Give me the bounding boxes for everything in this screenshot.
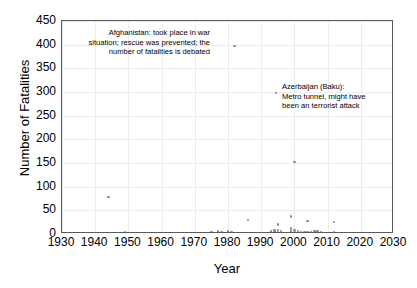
gridline-vertical: [294, 21, 295, 232]
data-point: [310, 231, 312, 233]
scatter-chart-figure: Number of Fatalities 0501001502002503003…: [0, 0, 417, 288]
data-point: [280, 232, 282, 233]
data-point: [333, 221, 335, 223]
data-point: [247, 219, 249, 221]
gridline-vertical: [328, 21, 329, 232]
gridline-vertical: [261, 21, 262, 232]
y-axis-tick-label: 400: [16, 38, 56, 50]
data-point: [270, 232, 272, 233]
data-point: [326, 232, 328, 233]
data-point: [277, 232, 279, 233]
x-axis-tick-label: 2030: [371, 236, 415, 248]
data-point: [233, 45, 235, 47]
annotation-azerbaijan: Azerbaijan (Baku): Metro tunnel, might h…: [282, 82, 394, 111]
gridline-horizontal: [62, 21, 392, 22]
data-point: [333, 231, 335, 233]
data-point: [273, 231, 275, 233]
gridline-horizontal: [62, 68, 392, 69]
gridline-vertical: [361, 21, 362, 232]
data-point: [277, 223, 279, 225]
data-point: [300, 231, 302, 233]
data-point: [230, 231, 232, 233]
y-axis-tick-label: 300: [16, 85, 56, 97]
x-axis-title: Year: [61, 261, 393, 276]
gridline-horizontal: [62, 163, 392, 164]
y-axis-tick-label: 100: [16, 180, 56, 192]
data-point: [320, 232, 322, 233]
y-axis-tick-label: 250: [16, 109, 56, 121]
data-point: [310, 232, 312, 233]
data-point: [220, 232, 222, 233]
data-point: [223, 232, 225, 233]
data-point: [290, 230, 292, 232]
gridline-horizontal: [62, 210, 392, 211]
data-point: [290, 215, 292, 217]
data-point: [303, 232, 305, 233]
data-point: [306, 220, 308, 222]
data-point: [124, 231, 126, 233]
y-axis-tick-label: 450: [16, 14, 56, 26]
data-point: [267, 232, 269, 233]
data-point: [306, 231, 308, 233]
data-point: [290, 227, 292, 229]
data-point: [293, 231, 295, 233]
y-axis-tick-label: 150: [16, 156, 56, 168]
data-point: [233, 232, 235, 233]
data-point: [107, 196, 109, 198]
data-point: [320, 231, 322, 233]
data-point: [323, 232, 325, 233]
data-point: [313, 232, 315, 233]
data-point: [243, 232, 245, 233]
data-point: [297, 232, 299, 233]
data-point: [260, 232, 262, 233]
y-axis-tick-label: 50: [16, 203, 56, 215]
data-point: [293, 161, 295, 163]
data-point: [214, 232, 216, 233]
gridline-horizontal: [62, 139, 392, 140]
gridline-horizontal: [62, 116, 392, 117]
data-point: [160, 232, 162, 233]
gridline-vertical: [228, 21, 229, 232]
data-point: [127, 232, 129, 233]
data-point: [240, 232, 242, 233]
data-point: [247, 232, 249, 233]
data-point: [217, 230, 219, 232]
gridline-horizontal: [62, 187, 392, 188]
y-axis-tick-label: 350: [16, 61, 56, 73]
data-point: [227, 230, 229, 232]
data-point: [210, 231, 212, 233]
data-point: [283, 232, 285, 233]
annotation-afghanistan: Afghanistan: took place in war situation…: [88, 28, 210, 57]
gridline-vertical: [62, 21, 63, 232]
data-point: [316, 230, 318, 232]
y-axis-tick-label: 200: [16, 132, 56, 144]
